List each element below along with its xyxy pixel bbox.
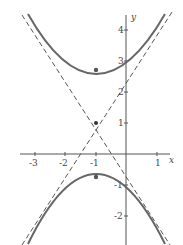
hyperbola-chart: -3 -2 -1 1 x y 4 3 2 1 -1 -2 [0, 0, 183, 245]
upper-branch [28, 14, 165, 74]
y-tick: -2 [114, 211, 123, 221]
x-tick: -2 [59, 158, 68, 168]
asymptote [22, 12, 172, 245]
y-tick: 1 [118, 118, 124, 128]
focus-point [94, 175, 98, 179]
lower-branch [28, 174, 165, 244]
center-point [94, 121, 98, 125]
focus-point [94, 68, 98, 72]
y-tick: 4 [118, 25, 124, 35]
y-label: y [130, 12, 137, 22]
x-tick: 1 [155, 158, 161, 168]
x-tick: -1 [90, 158, 99, 168]
x-tick: -3 [29, 158, 38, 168]
x-label: x [169, 155, 174, 165]
